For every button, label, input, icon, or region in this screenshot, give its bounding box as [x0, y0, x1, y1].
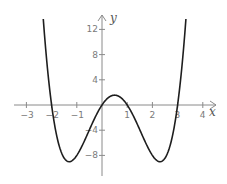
x-tick-label: 1: [124, 110, 130, 120]
y-tick-label: 4: [92, 75, 98, 85]
x-tick-label: −1: [71, 110, 84, 120]
function-curve: [43, 19, 186, 162]
x-tick-label: −3: [20, 110, 33, 120]
y-tick-label: −8: [85, 150, 99, 160]
x-tick-label: 2: [149, 110, 155, 120]
function-graph: −3−2−11234 1284−4−8 x y: [0, 0, 227, 184]
x-tick-label: 4: [200, 110, 206, 120]
y-tick-label: 8: [92, 50, 98, 60]
x-axis-label: x: [209, 105, 216, 119]
y-tick-label: 12: [87, 24, 98, 34]
y-axis-label: y: [109, 11, 117, 25]
